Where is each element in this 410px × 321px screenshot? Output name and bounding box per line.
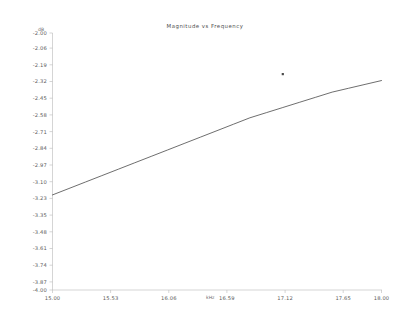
y-tick-label: -2.00 [33, 30, 47, 36]
x-tick-label: 17.65 [335, 295, 351, 301]
chart-title: Magnitude vs Frequency [167, 23, 244, 30]
y-tick-label: -2.19 [33, 62, 47, 68]
y-tick-label: -3.74 [33, 262, 48, 268]
x-tick-label: 15.53 [103, 295, 119, 301]
y-axis-ticks: -2.00 -2.06 -2.19 -2.32 -2.45 -2.58 -2.7… [33, 30, 53, 293]
marker-layer [282, 73, 284, 75]
x-tick-label: 15.00 [45, 295, 61, 301]
y-tick-label: -3.48 [33, 229, 47, 235]
x-axis-ticks: 15.00 15.53 16.06 16.59 17.12 17.65 18.0… [45, 290, 390, 301]
y-tick-label: -2.45 [33, 95, 47, 101]
y-tick-label: -2.06 [33, 45, 47, 51]
x-axis-unit-label: kHz [206, 295, 215, 300]
y-tick-label: -3.35 [33, 212, 47, 218]
y-tick-label: -3.61 [33, 245, 47, 251]
y-tick-label: -3.87 [33, 279, 47, 285]
y-tick-label: -3.23 [33, 195, 47, 201]
y-tick-label: -2.84 [33, 145, 48, 151]
isolated-point-marker [282, 73, 284, 75]
x-tick-label: 16.59 [219, 295, 235, 301]
magnitude-vs-frequency-chart: Magnitude vs Frequency dB kHz -2.00 -2.0… [0, 0, 410, 321]
y-tick-label: -2.97 [33, 162, 47, 168]
y-tick-label: -2.58 [33, 112, 47, 118]
chart-screen: Magnitude vs Frequency dB kHz -2.00 -2.0… [0, 0, 410, 321]
x-tick-label: 18.00 [374, 295, 390, 301]
x-tick-label: 16.06 [161, 295, 177, 301]
y-tick-label: -2.71 [33, 129, 47, 135]
y-tick-label: -2.32 [33, 78, 47, 84]
x-tick-label: 17.12 [277, 295, 293, 301]
y-tick-label: -3.10 [33, 179, 47, 185]
magnitude-curve [53, 81, 382, 195]
y-tick-label: -4.00 [33, 287, 47, 293]
